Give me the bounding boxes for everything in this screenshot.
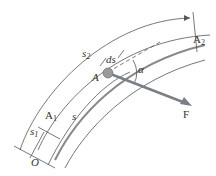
label-s: s (72, 110, 76, 122)
label-s2: s2 (82, 47, 90, 61)
label-f: F (183, 108, 189, 120)
s2-arc (20, 18, 190, 150)
work-diagram: s2 A2 A ds α F A1 s1 s O (0, 0, 216, 176)
s2-arrowhead (184, 15, 190, 21)
ds-tick-2 (118, 50, 124, 58)
label-a: A (91, 71, 99, 83)
force-arrow (108, 73, 188, 104)
label-ds: ds (106, 53, 116, 65)
particle (103, 68, 113, 78)
label-alpha: α (138, 63, 144, 75)
outer-curve (38, 35, 210, 150)
label-s1: s1 (30, 125, 38, 139)
a2-tick (193, 12, 197, 52)
force-arrowhead (180, 97, 192, 106)
label-o: O (31, 156, 39, 168)
label-a1: A1 (45, 109, 57, 123)
tangent-line (108, 42, 160, 72)
